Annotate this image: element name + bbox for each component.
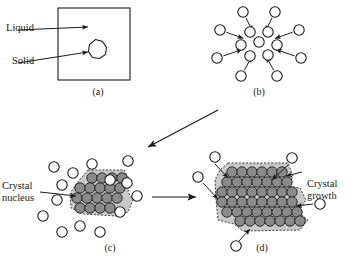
panel-d-crystal-atom-29 bbox=[222, 207, 232, 217]
figure-canvas bbox=[0, 0, 351, 263]
panel-b-cluster-atom-6 bbox=[263, 50, 273, 60]
panel-d-crystal-atom-6 bbox=[222, 177, 232, 187]
panel-d-crystal-atom-39 bbox=[255, 216, 265, 226]
panel-d-crystal-atom-41 bbox=[275, 216, 285, 226]
panel-d-crystal-atom-26 bbox=[267, 197, 277, 207]
panel-d-liquid-atom-4 bbox=[231, 241, 241, 251]
crystal-nucleation-figure: (a) (b) (c) (d) Liquid Solid Crystal nuc… bbox=[0, 0, 351, 263]
panel-c-crystal-atom-14 bbox=[75, 203, 85, 213]
panel-label-b: (b) bbox=[247, 86, 271, 98]
panel-b-attachment-arrow-2 bbox=[226, 32, 243, 38]
panel-c-liquid-atom-9 bbox=[115, 207, 125, 217]
panel-a-liquid-container bbox=[58, 8, 130, 80]
panel-b-liquid-atom-3 bbox=[294, 25, 304, 35]
panel-d-crystal-atom-23 bbox=[237, 197, 247, 207]
panel-d-crystal-atom-15 bbox=[237, 187, 247, 197]
solid-label-line: Solid bbox=[12, 55, 34, 67]
panel-c-crystal-atom-4 bbox=[75, 183, 85, 193]
panel-d-crystal-atom-27 bbox=[277, 197, 287, 207]
panel-d-crystal-atom-8 bbox=[242, 177, 252, 187]
panel-c-crystal-atom-5 bbox=[85, 183, 95, 193]
panel-b-cluster-atom-4 bbox=[272, 40, 282, 50]
liquid-label: Liquid bbox=[6, 22, 34, 34]
panel-c-liquid-atom-1 bbox=[87, 159, 97, 169]
crystal-growth-label-line2: growth bbox=[307, 190, 337, 202]
panel-c-liquid-atom-8 bbox=[132, 191, 142, 201]
panel-c-liquid-atom-11 bbox=[57, 227, 67, 237]
panel-d-crystal-atom-22 bbox=[227, 197, 237, 207]
panel-d-crystal-atom-2 bbox=[247, 167, 257, 177]
panel-c-crystal-atom-13 bbox=[112, 193, 122, 203]
panel-c-crystal-atom-6 bbox=[95, 183, 105, 193]
panel-d-crystal-atom-38 bbox=[245, 216, 255, 226]
panel-b-liquid-atom-5 bbox=[296, 53, 306, 63]
panel-d-crystal-atom-28 bbox=[287, 197, 297, 207]
panel-c-crystal-atom-10 bbox=[82, 193, 92, 203]
panel-c-liquid-atom-0 bbox=[49, 162, 59, 172]
panel-d-liquid-atom-2 bbox=[287, 153, 297, 163]
panel-d-crystal-atom-12 bbox=[282, 177, 292, 187]
liquid-label-line: Liquid bbox=[6, 22, 34, 34]
panel-d-crystal-atom-17 bbox=[257, 187, 267, 197]
panel-b-attachment-arrow-4 bbox=[223, 50, 242, 56]
crystal-nucleus-label-line1: Crystal bbox=[2, 180, 34, 192]
crystal-nucleus-label-line2: nucleus bbox=[2, 192, 34, 204]
panel-c-liquid-atom-12 bbox=[95, 227, 105, 237]
panel-d-crystal-atom-20 bbox=[287, 187, 297, 197]
panel-c-crystal-atom-11 bbox=[92, 193, 102, 203]
panel-d-crystal-atom-5 bbox=[277, 167, 287, 177]
panel-d-crystal-atom-3 bbox=[257, 167, 267, 177]
panel-d-crystal-atom-9 bbox=[252, 177, 262, 187]
panel-d-crystal-atom-37 bbox=[235, 216, 245, 226]
panel-d-crystal-atom-4 bbox=[267, 167, 277, 177]
panel-d-crystal-atom-40 bbox=[265, 216, 275, 226]
panel-b-attachment-arrow-3 bbox=[275, 32, 293, 38]
panel-d-crystal-atom-14 bbox=[227, 187, 237, 197]
panel-d-crystal-atom-16 bbox=[247, 187, 257, 197]
panel-label-d: (d) bbox=[250, 242, 274, 254]
panel-d-liquid-atom-0 bbox=[210, 152, 220, 162]
panel-c-crystal-atom-16 bbox=[95, 203, 105, 213]
panel-label-c: (c) bbox=[98, 242, 122, 254]
panel-c-crystal-atom-9 bbox=[72, 193, 82, 203]
panel-d-crystal-atom-7 bbox=[232, 177, 242, 187]
panel-d-liquid-atom-1 bbox=[193, 172, 203, 182]
panel-d-crystal-atom-25 bbox=[257, 197, 267, 207]
panel-label-a: (a) bbox=[86, 86, 110, 98]
panel-b-liquid-atom-2 bbox=[215, 25, 225, 35]
panel-d-crystal-atom-43 bbox=[295, 216, 305, 226]
panel-b-cluster-atom-0 bbox=[245, 27, 255, 37]
panel-c-liquid-atom-13 bbox=[38, 211, 48, 221]
panel-d-crystal-atom-21 bbox=[217, 197, 227, 207]
arrow-b-to-c bbox=[148, 110, 218, 147]
crystal-nucleus-label: Crystal nucleus bbox=[2, 180, 34, 204]
panel-b-cluster-atom-2 bbox=[236, 40, 246, 50]
panel-b-cluster-atom-1 bbox=[263, 27, 273, 37]
panel-c-crystal-atom-12 bbox=[102, 193, 112, 203]
panel-b-liquid-atom-1 bbox=[270, 7, 280, 17]
crystal-growth-label-line1: Crystal bbox=[307, 178, 337, 190]
panel-b-cluster-atom-5 bbox=[245, 51, 255, 61]
panel-c-liquid-atom-5 bbox=[57, 180, 67, 190]
panel-a-solid-nucleus bbox=[89, 40, 107, 59]
panel-b-liquid-atom-0 bbox=[238, 7, 248, 17]
panel-b-attachment-arrow-5 bbox=[276, 50, 295, 56]
panel-d-crystal-atom-18 bbox=[267, 187, 277, 197]
panel-c-liquid-atom-4 bbox=[105, 175, 115, 185]
panel-d-crystal-atom-24 bbox=[247, 197, 257, 207]
panel-c-crystal-atom-15 bbox=[85, 203, 95, 213]
panel-c-liquid-atom-7 bbox=[52, 195, 62, 205]
panel-d-crystal-atom-1 bbox=[237, 167, 247, 177]
panel-b-liquid-atom-6 bbox=[236, 71, 246, 81]
panel-d-crystal-atom-42 bbox=[285, 216, 295, 226]
panel-c-liquid-atom-6 bbox=[122, 178, 132, 188]
panel-b-liquid-atom-7 bbox=[272, 71, 282, 81]
panel-c-liquid-atom-3 bbox=[68, 168, 78, 178]
panel-d-crystal-atom-10 bbox=[262, 177, 272, 187]
panel-c-liquid-atom-10 bbox=[75, 221, 85, 231]
panel-c-liquid-atom-2 bbox=[123, 156, 133, 166]
panel-c-crystal-atom-0 bbox=[87, 173, 97, 183]
panel-d-crystal-atom-13 bbox=[217, 187, 227, 197]
panel-b-liquid-atom-4 bbox=[212, 53, 222, 63]
panel-d-crystal-atom-0 bbox=[227, 167, 237, 177]
